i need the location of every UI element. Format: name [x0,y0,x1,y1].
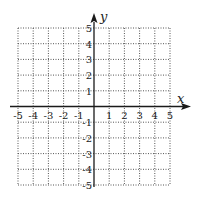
y-tick-label: 4 [86,39,92,50]
y-axis-label: y [99,9,108,24]
x-tick-label: -3 [44,110,54,121]
x-tick-labels: -5-4-3-2-112345 [13,110,173,121]
y-axis-arrow-icon [91,13,98,23]
y-tick-label: -2 [82,133,92,144]
x-axis-label: x [177,91,185,106]
y-tick-label: 5 [86,23,92,34]
x-tick-label: 4 [152,110,158,121]
y-tick-label: -5 [82,180,92,191]
x-tick-label: -5 [13,110,23,121]
x-tick-label: 1 [106,110,112,121]
x-tick-label: 5 [167,110,173,121]
x-tick-label: 2 [121,110,127,121]
y-tick-label: -3 [82,149,92,160]
y-tick-label: -4 [82,164,92,175]
y-tick-label: 3 [86,54,92,65]
axes [10,13,191,187]
x-tick-label: -4 [28,110,38,121]
y-tick-label: 2 [86,70,92,81]
y-tick-label: -1 [82,117,92,128]
x-tick-label: 3 [136,110,142,121]
x-tick-label: -2 [59,110,69,121]
coordinate-plane: -5-4-3-2-112345 -5-4-3-2-112345 x y [0,0,201,204]
y-tick-label: 1 [86,86,92,97]
